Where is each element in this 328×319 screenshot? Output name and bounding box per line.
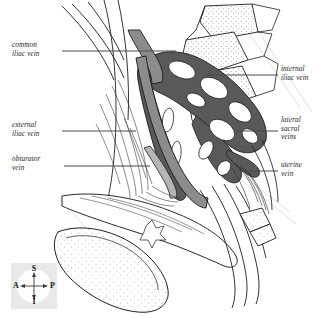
figure-root: common iliac vein external iliac vein ob… <box>0 0 328 319</box>
compass-label-inferior: I <box>11 298 57 306</box>
pelvic-soft-tissue-outline <box>62 0 129 214</box>
label-external-iliac-vein: external iliac vein <box>12 121 40 138</box>
compass-label-superior: S <box>11 265 57 273</box>
compass-label-posterior: P <box>45 282 55 290</box>
label-internal-iliac-vein: internal iliac vein <box>281 65 309 82</box>
compass-label-anterior: A <box>13 282 23 290</box>
label-obturator-vein: obturator vein <box>12 155 40 172</box>
label-lateral-sacral-veins: lateral sacral veins <box>281 116 301 142</box>
orientation-compass: S I A P <box>11 263 57 309</box>
label-uterine-vein: uterine vein <box>281 161 302 178</box>
label-common-iliac-vein: common iliac vein <box>12 41 40 58</box>
